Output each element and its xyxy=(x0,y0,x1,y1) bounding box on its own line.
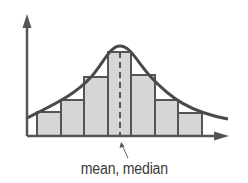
histogram-bar xyxy=(37,112,61,136)
histogram-bar xyxy=(155,100,178,136)
pointer-arrow-icon xyxy=(120,142,125,148)
distribution-diagram xyxy=(0,0,248,183)
histogram-bar xyxy=(84,77,108,136)
histogram-bar xyxy=(131,75,155,136)
mean-median-label: mean, median xyxy=(15,160,233,178)
histogram-bar xyxy=(61,100,84,136)
histogram-bar xyxy=(178,113,202,136)
x-axis-arrow-icon xyxy=(214,132,229,141)
y-axis-arrow-icon xyxy=(23,14,32,28)
